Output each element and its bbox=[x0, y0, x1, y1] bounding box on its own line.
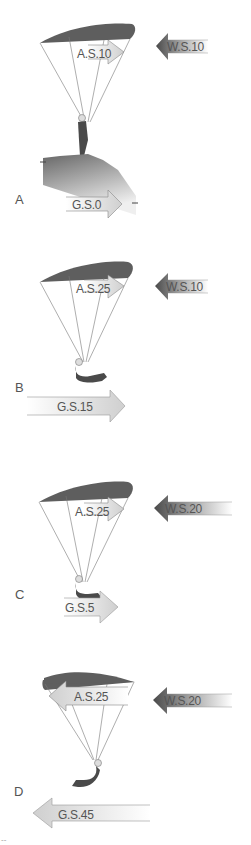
panel-b-illustration: A.S.25 W.S.10 G.S.15 bbox=[0, 240, 251, 430]
windspeed-label: W.S.10 bbox=[166, 280, 204, 294]
windspeed-label: W.S.10 bbox=[167, 40, 205, 54]
panel-d: A.S.25 W.S.20 G.S.45 D bbox=[0, 660, 251, 845]
panel-letter: C bbox=[15, 587, 24, 602]
panel-d-illustration: A.S.25 W.S.20 G.S.45 bbox=[0, 660, 251, 845]
airspeed-label: A.S.25 bbox=[76, 282, 111, 296]
panel-letter: B bbox=[15, 380, 24, 395]
airspeed-label: A.S.25 bbox=[75, 505, 110, 519]
pilot-standing-icon bbox=[78, 115, 88, 157]
wing-icon bbox=[39, 482, 133, 502]
groundspeed-label: G.S.45 bbox=[58, 808, 94, 822]
wing-icon bbox=[40, 23, 135, 43]
panel-c-illustration: A.S.25 W.S.20 G.S.5 bbox=[0, 460, 251, 630]
airspeed-label: A.S.25 bbox=[74, 690, 109, 704]
footer-mark: -- bbox=[1, 835, 6, 844]
pilot-seated-icon bbox=[72, 760, 102, 788]
windspeed-label: W.S.20 bbox=[165, 502, 203, 516]
windspeed-label: W.S.20 bbox=[164, 694, 202, 708]
groundspeed-label: G.S.15 bbox=[57, 400, 93, 414]
panel-letter: D bbox=[14, 784, 23, 799]
groundspeed-label: G.S.5 bbox=[65, 601, 95, 615]
panel-b: A.S.25 W.S.10 G.S.15 B bbox=[0, 240, 251, 430]
panel-a: A.S.10 W.S.10 G.S.0 A bbox=[0, 0, 251, 215]
wing-icon bbox=[40, 262, 133, 282]
panel-a-illustration: A.S.10 W.S.10 G.S.0 bbox=[0, 0, 251, 215]
pilot-seated-icon bbox=[76, 359, 108, 383]
panel-letter: A bbox=[15, 192, 24, 207]
airspeed-label: A.S.10 bbox=[77, 47, 112, 61]
groundspeed-label: G.S.0 bbox=[72, 198, 102, 212]
pilot-seated-icon bbox=[76, 576, 103, 602]
panel-c: A.S.25 W.S.20 G.S.5 C bbox=[0, 460, 251, 630]
